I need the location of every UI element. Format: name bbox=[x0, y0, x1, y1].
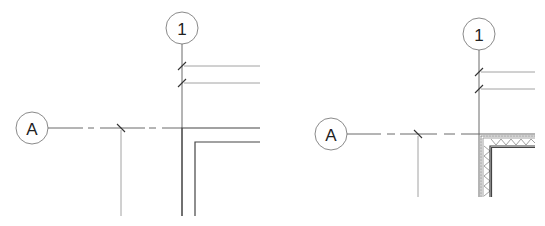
wall-inner-face bbox=[492, 148, 536, 198]
wall-simple[interactable] bbox=[182, 128, 260, 216]
grid-label-a: A bbox=[26, 120, 38, 139]
grid-label-1: 1 bbox=[177, 20, 186, 39]
left-panel: 1 A bbox=[16, 12, 260, 216]
wall-inner-face bbox=[490, 146, 535, 197]
wall-inner-face bbox=[195, 142, 260, 216]
wall-layered[interactable] bbox=[479, 134, 535, 197]
right-panel: 1 A bbox=[315, 18, 535, 197]
grid-bubble-1[interactable]: 1 bbox=[166, 12, 198, 44]
grid-bubble-a[interactable]: A bbox=[16, 112, 48, 144]
grid-bubble-a[interactable]: A bbox=[315, 118, 347, 150]
wall-outer-face bbox=[182, 128, 260, 216]
wall-insulation-layer bbox=[483, 138, 535, 197]
grid-bubble-1[interactable]: 1 bbox=[463, 18, 495, 50]
drawing-canvas: 1 A bbox=[0, 0, 545, 226]
grid-label-a: A bbox=[325, 126, 337, 145]
grid-label-1: 1 bbox=[474, 26, 483, 45]
